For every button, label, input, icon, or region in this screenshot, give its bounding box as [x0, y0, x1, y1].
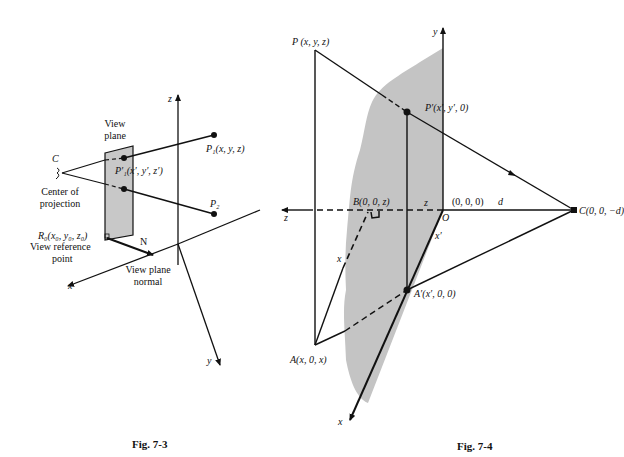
p-to-c-line	[315, 50, 382, 95]
fig74-x-axis-label: x	[338, 416, 342, 427]
fig73-view-ref-label-2: point	[52, 253, 73, 264]
fig74-z-seg-label: z	[424, 197, 428, 208]
fig73-p1-prime-label: P′₁(x′, y′, z′)	[115, 165, 163, 176]
fig74-caption: Fig. 7-4	[457, 440, 492, 452]
p1-point	[211, 132, 217, 138]
fig73-c-label: C	[52, 153, 59, 164]
projector-line-2	[62, 173, 105, 184]
a-prime-point	[404, 287, 411, 294]
view-plane	[105, 146, 133, 240]
projector-line-1	[62, 160, 105, 173]
fig73-p1-label: P₁(x, y, z)	[206, 143, 244, 154]
fig73-normal-label-2: normal	[118, 276, 178, 287]
p1-prime-point	[121, 155, 127, 161]
fig73-center-label-2: projection	[25, 198, 95, 209]
fig73-z-axis-label: z	[168, 93, 172, 104]
fig74-y-axis-label: y	[433, 26, 437, 37]
fig74-b-label: B(0, 0, z)	[353, 196, 390, 207]
fig74-z-axis-label: z	[284, 212, 288, 223]
y-axis	[178, 244, 220, 365]
fig73-caption: Fig. 7-3	[132, 438, 167, 450]
fig73-p2-label: P₂	[210, 198, 220, 209]
fig73-view-plane-label-2: plane	[100, 130, 130, 141]
fig74-d-label: d	[498, 196, 503, 207]
fig74-p-prime-label: P′(x′, y′, 0)	[425, 102, 468, 113]
eye-icon	[56, 168, 59, 179]
fig73-x-axis-label: x	[68, 280, 72, 291]
d-arrow-icon	[508, 170, 516, 176]
fig74-origin-label: O	[442, 212, 449, 223]
fig73-center-label-1: Center of	[25, 186, 95, 197]
fig73-n-label: N	[140, 236, 147, 247]
fig74-x-prime-seg-label: x′	[435, 230, 442, 241]
p2-prime-point	[121, 186, 127, 192]
fig73-r0-label: R₀(x₀, y₀, z₀)	[38, 230, 87, 241]
fig74-p-label: P (x, y, z)	[292, 36, 329, 47]
fig74-origin-coords-label: (0, 0, 0)	[452, 196, 484, 207]
p2-point	[211, 211, 217, 217]
fig74-c-label: C(0, 0, −d)	[579, 205, 624, 216]
axis-extension	[178, 210, 260, 244]
fig74-x-seg-label: x	[337, 253, 341, 264]
fig74-a-prime-label: A′(x′, 0, 0)	[414, 288, 456, 299]
fig73-normal-label-1: View plane	[118, 264, 178, 275]
fig73-y-axis-label: y	[207, 355, 211, 366]
fig73-view-plane-label-1: View	[100, 118, 130, 129]
fig74-a-label: A(x, 0, x)	[290, 354, 327, 365]
fig73-view-ref-label-1: View reference	[30, 241, 91, 252]
